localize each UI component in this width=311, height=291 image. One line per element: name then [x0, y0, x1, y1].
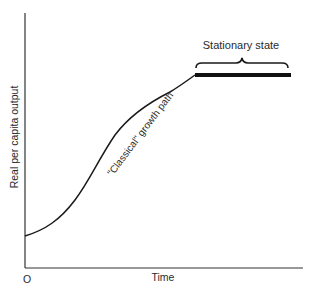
growth-diagram: Stationary state "Classical" growth path… — [0, 0, 311, 291]
x-axis-label: Time — [152, 271, 175, 283]
origin-label: O — [23, 273, 31, 285]
stationary-state-label: Stationary state — [203, 39, 279, 51]
stationary-brace — [196, 58, 288, 68]
y-axis-label: Real per capita output — [8, 86, 20, 189]
